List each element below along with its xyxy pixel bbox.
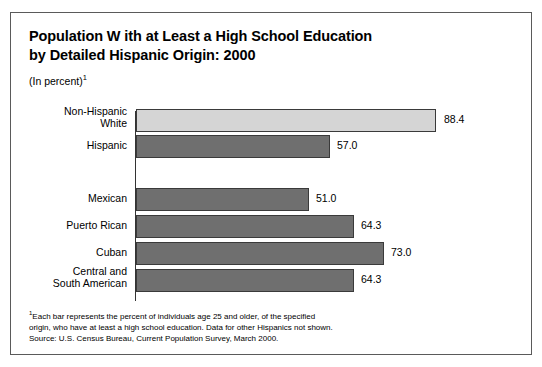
bar-value-cuban: 73.0	[391, 246, 411, 258]
chart-subtitle-footnote-marker: 1	[83, 73, 87, 82]
bar-central-and-south-american	[136, 269, 354, 292]
bar-value-central-and-south-american: 64.3	[361, 273, 381, 285]
bar-mexican	[136, 188, 309, 211]
footnote-line-1: 1Each bar represents the percent of indi…	[29, 309, 449, 322]
bar-row: Cuban 73.0	[29, 242, 509, 265]
footnote-source-line: Source: U.S. Census Bureau, Current Popu…	[29, 333, 449, 344]
title-block: Population W ith at Least a High School …	[29, 27, 499, 87]
chart-subtitle: (In percent)1	[29, 73, 499, 87]
bar-label-mexican: Mexican	[0, 192, 127, 204]
bar-row: Hispanic 57.0	[29, 135, 509, 158]
bar-value-mexican: 51.0	[316, 192, 336, 204]
bar-label-puerto-rican: Puerto Rican	[0, 219, 127, 231]
plot-area: Non-Hispanic White 88.4 Hispanic 57.0 Me…	[29, 105, 509, 305]
bar-label-cuban: Cuban	[0, 246, 127, 258]
footnote-text-1: Each bar represents the percent of indiv…	[32, 312, 315, 321]
bar-row: Puerto Rican 64.3	[29, 215, 509, 238]
bar-puerto-rican	[136, 215, 354, 238]
chart-title: Population W ith at Least a High School …	[29, 27, 499, 64]
bar-label-central-and-south-american: Central and South American	[0, 265, 127, 290]
footnote-line-2: origin, who have at least a high school …	[29, 322, 449, 333]
bar-hispanic	[136, 135, 330, 158]
chart-title-line-1: Population W ith at Least a High School …	[29, 28, 372, 44]
bar-row: Central and South American 64.3	[29, 269, 509, 292]
chart-title-line-2: by Detailed Hispanic Origin: 2000	[29, 47, 255, 63]
chart-subtitle-text: (In percent)	[29, 75, 83, 87]
bar-row: Mexican 51.0	[29, 188, 509, 211]
bar-row: Non-Hispanic White 88.4	[29, 109, 509, 132]
chart-figure-frame: Population W ith at Least a High School …	[10, 12, 532, 355]
bar-label-non-hispanic-white: Non-Hispanic White	[0, 105, 127, 130]
bar-value-non-hispanic-white: 88.4	[444, 113, 464, 125]
bar-cuban	[136, 242, 384, 265]
bar-non-hispanic-white	[136, 109, 436, 132]
bar-value-hispanic: 57.0	[337, 139, 357, 151]
footnote-block: 1Each bar represents the percent of indi…	[29, 309, 449, 345]
bar-value-puerto-rican: 64.3	[361, 219, 381, 231]
bar-label-hispanic: Hispanic	[0, 139, 127, 151]
